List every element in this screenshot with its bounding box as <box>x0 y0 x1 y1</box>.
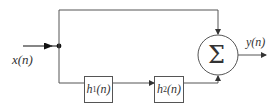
block-h1: h1(n) <box>84 76 113 103</box>
block-diagram: x(n) y(n) Σ h1(n) h2(n) <box>0 0 277 111</box>
output-label: y(n) <box>246 36 265 48</box>
direct-path <box>59 10 218 46</box>
block-h2: h2(n) <box>154 76 184 103</box>
h2-arg: (n) <box>167 82 181 97</box>
sigma-symbol: Σ <box>208 43 225 67</box>
h2-to-sum-arrow <box>183 76 218 83</box>
h1-arg: (n) <box>97 82 111 97</box>
input-label: x(n) <box>12 53 33 66</box>
diagram-wires <box>0 0 277 111</box>
